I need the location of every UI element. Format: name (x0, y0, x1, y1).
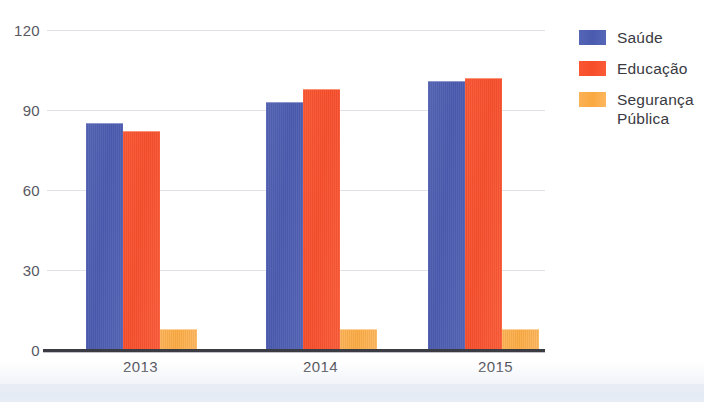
bar-2013-series-1 (123, 131, 160, 350)
y-tick-90: 90 (0, 103, 40, 118)
bar-2013-series-0 (86, 123, 123, 350)
x-tick-2015: 2015 (440, 358, 551, 375)
bar-2015-series-2 (502, 329, 539, 350)
bar-2013-series-2 (160, 329, 197, 350)
legend-swatch-icon-educacao (579, 61, 606, 76)
y-tick-120: 120 (0, 23, 40, 38)
bar-fill (502, 329, 539, 350)
bar-fill (428, 81, 465, 350)
y-tick-0: 0 (0, 343, 40, 358)
bars-layer (47, 30, 545, 350)
scan-artifact-band-lower (0, 392, 704, 402)
bar-fill (303, 89, 340, 350)
legend-label-educacao: Educação (617, 59, 701, 78)
bar-fill (266, 102, 303, 350)
legend: Saúde Educação Segurança Pública (579, 28, 701, 140)
bar-2014-series-0 (266, 102, 303, 350)
chart-screenshot: 120 90 60 30 0 2013 2014 2015 Saúde Educ… (0, 0, 704, 402)
x-axis-line-shadow (43, 352, 545, 353)
y-tick-60: 60 (0, 183, 40, 198)
y-axis-labels: 120 90 60 30 0 (0, 30, 40, 350)
bar-2015-series-0 (428, 81, 465, 350)
legend-label-seguranca-publica: Segurança Pública (617, 90, 701, 128)
bar-fill (86, 123, 123, 350)
legend-item-seguranca-publica: Segurança Pública (579, 90, 701, 128)
legend-swatch-icon-seguranca-publica (579, 92, 606, 107)
bar-2014-series-2 (340, 329, 377, 350)
plot-area (47, 30, 545, 350)
bar-2015-series-1 (465, 78, 502, 350)
bar-fill (465, 78, 502, 350)
legend-swatch-icon-saude (579, 30, 606, 45)
x-tick-2013: 2013 (85, 358, 196, 375)
x-tick-2014: 2014 (265, 358, 376, 375)
bar-fill (123, 131, 160, 350)
x-axis-labels: 2013 2014 2015 (47, 358, 545, 380)
legend-item-saude: Saúde (579, 28, 701, 47)
bar-fill (160, 329, 197, 350)
legend-item-educacao: Educação (579, 59, 701, 78)
y-tick-30: 30 (0, 263, 40, 278)
legend-label-saude: Saúde (617, 28, 701, 47)
bar-2014-series-1 (303, 89, 340, 350)
bar-fill (340, 329, 377, 350)
